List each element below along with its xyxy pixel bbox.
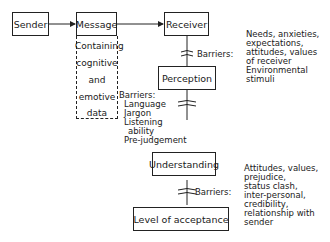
node-understanding: Understanding — [152, 152, 216, 176]
barrier-label-3: Barriers: — [195, 188, 231, 197]
barrier-item: Pre-judgement — [124, 136, 187, 145]
node-message-label: Message — [76, 19, 118, 30]
message-note-line: emotive — [75, 92, 119, 102]
barrier-item: sender — [244, 218, 273, 227]
node-message: Message — [76, 12, 117, 36]
node-perception-label: Perception — [162, 73, 212, 84]
message-note-line: data — [75, 108, 119, 118]
barrier-label-1: Barriers: — [197, 50, 233, 59]
message-note-line: and — [75, 75, 119, 85]
barrier-item: stimuli — [246, 75, 275, 84]
node-sender: Sender — [12, 12, 49, 36]
node-sender-label: Sender — [14, 19, 48, 30]
node-acceptance-label: Level of acceptance — [133, 214, 228, 225]
node-perception: Perception — [158, 66, 216, 90]
message-note-line: cognitive — [75, 58, 119, 68]
node-receiver-label: Receiver — [166, 19, 207, 30]
node-acceptance: Level of acceptance — [133, 207, 229, 231]
message-note-line: Containing — [75, 41, 119, 51]
node-receiver: Receiver — [164, 12, 209, 36]
node-understanding-label: Understanding — [149, 159, 219, 170]
